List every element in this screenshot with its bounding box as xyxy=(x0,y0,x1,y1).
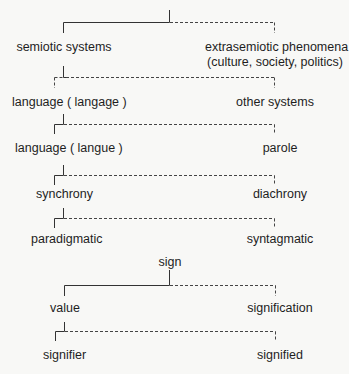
node-diachrony: diachrony xyxy=(235,187,325,201)
node-signification: signification xyxy=(235,301,325,315)
node-signified: signified xyxy=(240,348,320,362)
node-sign: sign xyxy=(140,255,200,269)
node-extrasemiotic-phenomena: extrasemiotic phenomena xyxy=(205,40,345,54)
diagram-canvas: semiotic systems extrasemiotic phenomena… xyxy=(0,0,349,374)
node-paradigmatic: paradigmatic xyxy=(31,232,103,246)
node-extrasemiotic-examples: (culture, society, politics) xyxy=(205,55,345,69)
node-syntagmatic: syntagmatic xyxy=(235,232,325,246)
node-semiotic-systems: semiotic systems xyxy=(4,40,124,54)
node-synchrony: synchrony xyxy=(36,187,93,201)
node-other-systems: other systems xyxy=(220,95,330,109)
node-langage: language ( langage ) xyxy=(12,95,127,109)
node-parole: parole xyxy=(240,141,320,155)
node-value: value xyxy=(50,301,80,315)
node-signifier: signifier xyxy=(43,348,86,362)
node-langue: language ( langue ) xyxy=(15,141,123,155)
